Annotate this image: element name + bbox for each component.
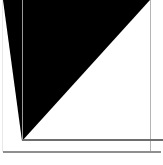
figure-plate (0, 0, 163, 165)
inner-vertical-rule (22, 0, 23, 141)
figure-canvas (0, 0, 163, 165)
inner-horizontal-rule (22, 139, 163, 141)
right-vertical-rule (150, 0, 151, 153)
outer-horizontal-rule (3, 151, 161, 153)
left-margin-rule (2, 0, 3, 152)
